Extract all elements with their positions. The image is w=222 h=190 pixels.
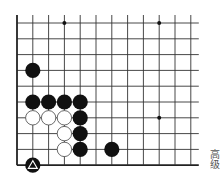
white-stone[interactable] <box>57 111 71 125</box>
black-stone[interactable] <box>41 94 56 109</box>
black-stone[interactable] <box>73 126 88 141</box>
black-stone[interactable] <box>104 142 119 157</box>
white-stone[interactable] <box>57 142 71 156</box>
board-grid <box>17 15 199 165</box>
star-point-icon <box>62 21 66 25</box>
go-board[interactable] <box>0 0 222 190</box>
white-stone[interactable] <box>41 111 55 125</box>
black-stone[interactable] <box>73 94 88 109</box>
difficulty-level-label: 高级 <box>207 149 219 169</box>
black-stone[interactable] <box>73 110 88 125</box>
white-stone[interactable] <box>57 126 71 140</box>
black-stone[interactable] <box>25 158 40 173</box>
black-stone[interactable] <box>73 142 88 157</box>
star-point-icon <box>157 21 161 25</box>
black-stone[interactable] <box>25 94 40 109</box>
black-stone[interactable] <box>25 63 40 78</box>
black-stone[interactable] <box>57 94 72 109</box>
white-stone[interactable] <box>26 111 40 125</box>
star-point-icon <box>157 116 161 120</box>
